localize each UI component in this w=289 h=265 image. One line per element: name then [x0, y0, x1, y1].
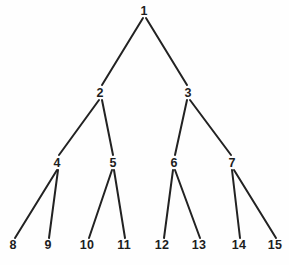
tree-node-12: 12	[155, 239, 169, 252]
tree-node-4: 4	[53, 157, 60, 170]
tree-edge-1-3	[146, 18, 187, 85]
tree-edge-7-15	[234, 170, 276, 238]
tree-edge-7-14	[232, 170, 240, 238]
tree-node-14: 14	[232, 239, 246, 252]
tree-edge-2-4	[59, 100, 99, 155]
tree-node-5: 5	[109, 157, 116, 170]
tree-node-2: 2	[96, 87, 103, 100]
tree-node-15: 15	[268, 239, 282, 252]
tree-node-13: 13	[192, 239, 206, 252]
tree-node-8: 8	[9, 239, 16, 252]
tree-edge-2-5	[102, 100, 113, 155]
tree-edges-layer	[0, 0, 289, 265]
tree-node-10: 10	[80, 239, 94, 252]
tree-node-6: 6	[170, 157, 177, 170]
tree-node-7: 7	[228, 157, 235, 170]
edges-group	[15, 18, 276, 238]
tree-node-11: 11	[117, 239, 131, 252]
tree-edge-6-12	[164, 170, 173, 238]
tree-edge-5-10	[89, 170, 112, 238]
tree-edge-6-13	[175, 170, 200, 238]
tree-edge-5-11	[114, 170, 125, 238]
tree-edge-1-2	[102, 18, 143, 85]
tree-node-9: 9	[44, 239, 51, 252]
binary-tree-diagram: 123456789101112131415	[0, 0, 289, 265]
tree-edge-3-7	[190, 100, 231, 155]
tree-node-3: 3	[184, 87, 191, 100]
tree-edge-3-6	[175, 100, 187, 155]
tree-node-1: 1	[140, 5, 147, 18]
